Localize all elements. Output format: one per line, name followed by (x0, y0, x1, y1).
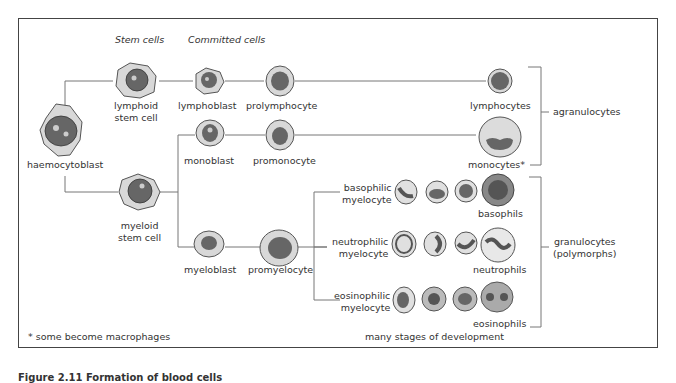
granulocytes-label: granulocytes (polymorphs) (553, 236, 617, 260)
neutrophil-series-icons (392, 228, 515, 262)
eosinophil-series-icons (393, 282, 513, 313)
figure-caption: Figure 2.11 Formation of blood cells (18, 372, 222, 383)
lymphoid-stem-cell-icon (116, 63, 156, 98)
neutrophils-label: neutrophils (473, 264, 526, 276)
myeloblast-cell-icon (194, 231, 224, 257)
myeloblast-label: myeloblast (184, 264, 236, 276)
macrophage-footnote: * some become macrophages (28, 331, 170, 343)
lymphoblast-label: lymphoblast (178, 100, 237, 112)
myeloid-stem-cell-label: myeloid stem cell (118, 220, 161, 244)
promonocyte-label: promonocyte (253, 155, 316, 167)
neutrophilic-myelocyte-label: neutrophilic myelocyte (332, 236, 388, 260)
lymphocyte-cell-icon (488, 69, 512, 93)
monoblast-cell-icon (196, 120, 224, 146)
committed-cells-header: Committed cells (188, 34, 265, 45)
promyelocyte-cell-icon (260, 230, 298, 266)
basophil-series-icons (395, 174, 514, 206)
promonocyte-cell-icon (266, 120, 294, 150)
prolymphocyte-label: prolymphocyte (246, 100, 317, 112)
eosinophilic-myelocyte-label: eosinophilic myelocyte (334, 290, 390, 314)
haemocytoblast-label: haemocytoblast (27, 159, 103, 171)
lymphoid-stem-cell-label: lymphoid stem cell (114, 100, 158, 124)
basophilic-myelocyte-label: basophilic myelocyte (342, 182, 392, 206)
lymphocytes-label: lymphocytes (470, 100, 531, 112)
agranulocytes-label: agranulocytes (553, 106, 620, 118)
lymphoblast-cell-icon (196, 68, 224, 94)
eosinophils-label: eosinophils (473, 318, 526, 330)
monoblast-label: monoblast (184, 155, 234, 167)
basophils-label: basophils (478, 208, 523, 220)
stem-cells-header: Stem cells (115, 34, 164, 45)
development-stages-note: many stages of development (365, 331, 504, 343)
haemocytoblast-cell-icon (40, 104, 82, 156)
myeloid-stem-cell-icon (119, 174, 160, 210)
monocytes-label: monocytes* (468, 159, 525, 171)
promyelocyte-label: promyelocyte (248, 264, 313, 276)
monocyte-cell-icon (479, 117, 521, 157)
prolymphocyte-cell-icon (266, 66, 294, 96)
